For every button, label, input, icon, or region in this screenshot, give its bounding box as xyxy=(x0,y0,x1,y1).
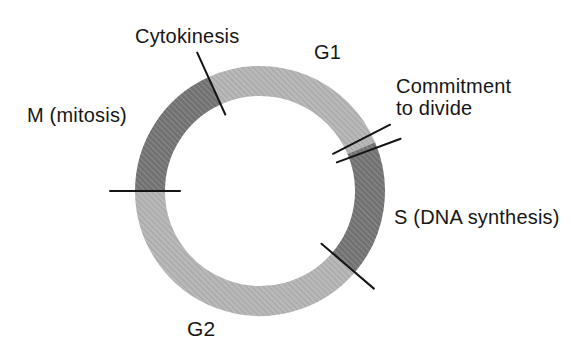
segment-s xyxy=(344,148,370,263)
cell-cycle-figure: Cytokinesis G1 Commitment to divide S (D… xyxy=(0,0,586,356)
cytokinesis-label: Cytokinesis xyxy=(135,25,239,47)
s-phase-label: S (DNA synthesis) xyxy=(394,206,560,228)
cell-cycle-ring xyxy=(0,0,586,356)
g1-phase-label: G1 xyxy=(314,41,341,63)
commitment-to-divide-label: Commitment to divide xyxy=(396,75,511,119)
g2-phase-label: G2 xyxy=(187,318,215,340)
segment-m xyxy=(150,91,214,191)
segment-g2 xyxy=(150,191,344,301)
commitment-label-line1: Commitment xyxy=(396,75,511,97)
m-phase-label: M (mitosis) xyxy=(27,104,127,126)
segment-g1 xyxy=(214,81,361,148)
commitment-label-line2: to divide xyxy=(396,97,511,119)
